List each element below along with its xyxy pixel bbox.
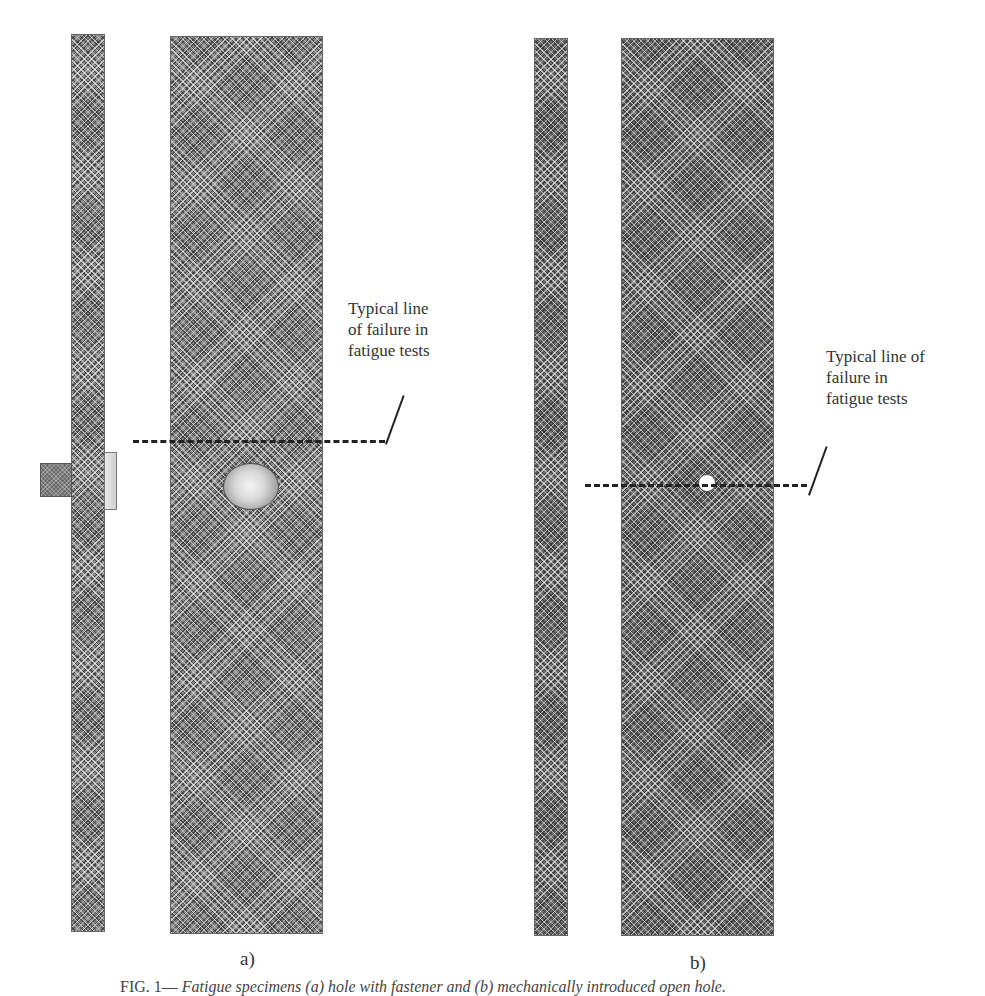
open-hole [698,474,716,492]
failure-line-b [585,484,807,487]
figure-caption: FIG. 1— Fatigue specimens (a) hole with … [120,978,726,996]
failure-line-a [133,440,385,443]
specimen-a-side-view [71,34,105,932]
specimen-b-side-view [534,38,568,936]
panel-label-a: a) [240,948,255,970]
fastener-nut [104,452,117,510]
leader-line-b [808,446,828,496]
leader-line-a [385,395,405,445]
fastener-head [40,463,72,497]
annotation-a: Typical line of failure in fatigue tests [348,298,430,361]
panel-label-b: b) [690,952,706,974]
caption-prefix: FIG. 1— [120,978,178,995]
annotation-b: Typical line of failure in fatigue tests [826,346,925,409]
specimen-b-front-view [621,38,774,936]
caption-text: Fatigue specimens (a) hole with fastener… [182,978,726,995]
fastener-dome [223,463,279,510]
